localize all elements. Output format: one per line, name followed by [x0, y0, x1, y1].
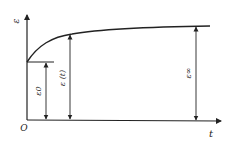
creep-curve	[27, 26, 210, 62]
origin-label: O	[20, 123, 28, 133]
y-axis-label: ε	[11, 18, 21, 23]
initial-strain-label: ε0	[34, 86, 43, 95]
creep-diagram: ε t O ε0 ε (t) ε∞	[0, 0, 232, 143]
x-axis	[27, 120, 221, 121]
x-axis-label: t	[209, 128, 214, 139]
strain-at-t-label: ε (t)	[58, 70, 67, 86]
final-strain-label: ε∞	[184, 68, 193, 79]
